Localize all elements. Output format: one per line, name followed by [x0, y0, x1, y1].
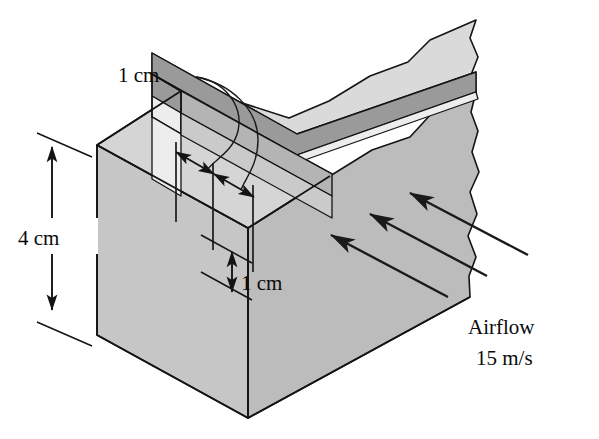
groove-width-label: 1 cm: [118, 63, 159, 87]
height-label: 4 cm: [18, 226, 59, 250]
height-extension-bottom: [37, 322, 92, 346]
airflow-label-line1: Airflow: [468, 315, 535, 339]
figure-container: 4 cm 1 cm 1 cm: [0, 0, 599, 439]
groove-depth-label: 1 cm: [241, 271, 282, 295]
airflow-label: Airflow 15 m/s: [468, 315, 535, 370]
technical-diagram: 4 cm 1 cm 1 cm: [0, 0, 599, 439]
dimension-height-4cm: 4 cm: [14, 133, 98, 346]
height-extension-top: [37, 133, 92, 157]
airflow-label-line2: 15 m/s: [476, 346, 533, 370]
